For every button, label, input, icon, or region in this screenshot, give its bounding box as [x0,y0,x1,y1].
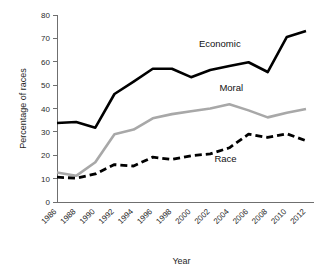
x-tick-label: 1996 [135,207,154,226]
series-label-race: Race [214,153,236,164]
series-line-moral [57,104,306,176]
x-axis-title: Year [172,256,190,266]
series-annotations: EconomicMoralRace [199,38,243,164]
y-tick-label: 30 [41,128,50,137]
y-tick-label: 40 [41,105,50,114]
x-tick-label: 1988 [59,207,78,226]
x-tick-label: 2002 [193,207,212,226]
series-label-economic: Economic [199,38,241,49]
x-tick-label: 2006 [231,207,250,226]
y-tick-label: 50 [41,81,50,90]
x-tick-label: 2004 [212,207,231,226]
chart-series [57,31,306,178]
y-tick-label: 60 [41,58,50,67]
x-tick-label: 2012 [288,207,307,226]
line-chart: 01020304050607080 1986198819901992199419… [0,0,320,272]
series-line-race [57,134,306,178]
y-tick-label: 20 [41,151,50,160]
x-tick-label: 1990 [78,207,97,226]
y-axis-title: Percentage of races [18,68,28,149]
y-tick-label: 80 [41,11,50,20]
x-axis-ticks: 1986198819901992199419961998200020022004… [39,207,307,226]
x-tick-label: 2008 [250,207,269,226]
x-tick-label: 2010 [269,207,288,226]
x-tick-label: 1998 [154,207,173,226]
y-tick-label: 10 [41,175,50,184]
y-tick-label: 70 [41,34,50,43]
series-label-moral: Moral [219,82,243,93]
x-tick-label: 1994 [116,207,135,226]
x-tick-label: 1986 [39,207,58,226]
y-tick-label: 0 [46,198,51,207]
axis-titles: YearPercentage of races [18,68,191,266]
chart-container: 01020304050607080 1986198819901992199419… [0,0,320,272]
y-axis-ticks: 01020304050607080 [41,11,57,207]
x-tick-label: 2000 [174,207,193,226]
x-tick-label: 1992 [97,207,116,226]
